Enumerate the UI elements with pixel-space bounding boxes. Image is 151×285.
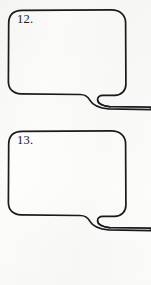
worksheet-page: 12. 13. bbox=[0, 0, 151, 285]
balloon-13-writing-area[interactable] bbox=[8, 131, 126, 217]
balloon-12-writing-area[interactable] bbox=[8, 10, 126, 96]
